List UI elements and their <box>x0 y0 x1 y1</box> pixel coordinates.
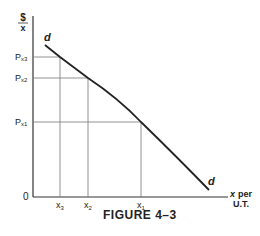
y-tick-px1: Px1 <box>15 117 28 127</box>
y-axis-label-bottom: x <box>20 23 25 33</box>
svg-text:x2: x2 <box>84 200 93 211</box>
x-axis-label-line1: xper <box>229 189 253 199</box>
y-axis-label-top: $ <box>20 12 26 23</box>
curve-label-top: d <box>44 31 51 43</box>
origin-label: 0 <box>23 191 29 202</box>
x-axis-label-line2: U.T. <box>233 199 249 209</box>
demand-curve <box>45 45 209 190</box>
demand-chart: $ x d d Px3 Px2 Px1 0 x3 x2 x1 xper U.T.… <box>0 0 260 236</box>
svg-text:x3: x3 <box>56 200 65 211</box>
y-tick-px3: Px3 <box>15 52 28 62</box>
svg-text:Px1: Px1 <box>15 117 28 127</box>
svg-text:Px2: Px2 <box>15 73 28 83</box>
svg-text:Px3: Px3 <box>15 52 28 62</box>
curve-label-bottom: d <box>208 175 215 187</box>
y-tick-px2: Px2 <box>15 73 28 83</box>
x-tick-x2: x2 <box>84 200 93 211</box>
x-tick-x3: x3 <box>56 200 65 211</box>
figure-caption: FIGURE 4–3 <box>103 208 177 222</box>
